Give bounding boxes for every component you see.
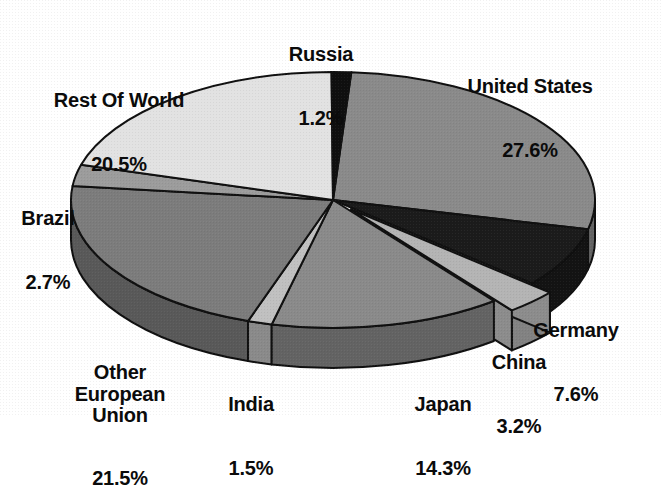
slice-label-other-european-union-name: Other European Union xyxy=(52,362,188,426)
slice-label-united-states-name: United States xyxy=(420,76,640,97)
slice-label-india: India 1.5% xyxy=(196,352,306,489)
slice-label-india-name: India xyxy=(196,394,306,415)
slice-label-rest-of-world-name: Rest Of World xyxy=(6,90,232,111)
slice-label-brazil: Brazil 2.7% xyxy=(0,166,96,336)
slice-label-russia: Russia 1.2% xyxy=(236,2,406,172)
slice-label-brazil-name: Brazil xyxy=(0,208,96,229)
slice-label-japan-pct: 14.3% xyxy=(382,458,504,479)
slice-label-united-states: United States 27.6% xyxy=(420,34,640,204)
slice-label-other-european-union-pct: 21.5% xyxy=(52,468,188,489)
slice-label-other-european-union: Other European Union 21.5% xyxy=(52,320,188,489)
slice-label-russia-pct: 1.2% xyxy=(236,108,406,129)
slice-label-india-pct: 1.5% xyxy=(196,458,306,479)
slice-label-united-states-pct: 27.6% xyxy=(420,140,640,161)
slice-label-brazil-pct: 2.7% xyxy=(0,272,96,293)
slice-label-japan-name: Japan xyxy=(382,394,504,415)
slice-label-russia-name: Russia xyxy=(236,44,406,65)
slice-label-japan: Japan 14.3% xyxy=(382,352,504,489)
